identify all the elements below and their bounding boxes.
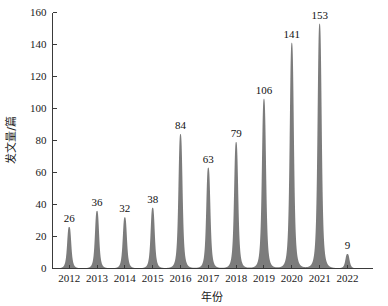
x-tick-label: 2020 [281, 272, 304, 284]
x-tick-label: 2014 [114, 272, 137, 284]
data-value-label: 153 [311, 9, 328, 21]
x-tick-label: 2021 [309, 272, 331, 284]
y-tick-label: 60 [36, 166, 48, 178]
y-tick-label: 120 [30, 70, 47, 82]
x-tick-label: 2018 [225, 272, 248, 284]
publication-count-chart: 020406080100120140160 201220132014201520… [0, 0, 388, 306]
x-axis-title: 年份 [201, 290, 223, 304]
data-value-label: 79 [231, 127, 243, 139]
x-tick-label: 2016 [170, 272, 193, 284]
data-value-label: 9 [345, 239, 351, 251]
plot-background [0, 0, 388, 306]
x-tick-label: 2015 [142, 272, 165, 284]
data-value-label: 38 [147, 193, 159, 205]
y-axis-title: 发文量/篇 [4, 116, 18, 164]
data-value-label: 36 [92, 196, 104, 208]
data-value-label: 32 [119, 202, 130, 214]
y-tick-label: 140 [30, 38, 47, 50]
data-value-label: 26 [64, 212, 76, 224]
y-tick-label: 20 [36, 230, 48, 242]
y-tick-label: 80 [36, 134, 48, 146]
x-tick-label: 2022 [336, 272, 358, 284]
y-tick-label: 0 [41, 262, 47, 274]
x-tick-label: 2012 [58, 272, 80, 284]
data-value-label: 63 [203, 153, 215, 165]
y-tick-label: 100 [30, 102, 47, 114]
chart-canvas: 020406080100120140160 201220132014201520… [0, 0, 388, 306]
data-value-label: 106 [256, 84, 273, 96]
data-value-label: 84 [175, 119, 187, 131]
y-tick-label: 40 [36, 198, 48, 210]
data-value-label: 141 [284, 28, 301, 40]
x-tick-label: 2019 [253, 272, 276, 284]
y-tick-label: 160 [30, 6, 47, 18]
x-tick-label: 2017 [197, 272, 220, 284]
x-tick-label: 2013 [86, 272, 109, 284]
